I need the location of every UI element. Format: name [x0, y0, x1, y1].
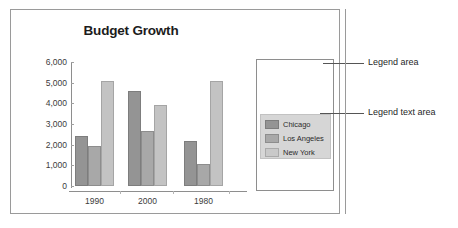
legend-item-label: Los Angeles	[283, 134, 324, 143]
y-axis-tick-labels: 6,0005,0004,0003,0002,0001,0000	[21, 62, 67, 188]
y-axis-tick-label: 2,000	[23, 140, 67, 150]
y-axis-tick-label: 1,000	[23, 160, 67, 170]
legend-swatch-icon	[265, 148, 279, 157]
chart-title: Budget Growth	[11, 23, 251, 38]
x-axis-line	[69, 191, 247, 192]
legend-item-label: New York	[283, 148, 315, 157]
chart-frame: Budget Growth 6,0005,0004,0003,0002,0001…	[10, 9, 340, 214]
callout-label: Legend text area	[368, 107, 436, 117]
callout-leader-line	[320, 113, 364, 114]
x-axis-tick-label: 1980	[181, 196, 227, 206]
y-axis-tick-label: 6,000	[23, 57, 67, 67]
bar-new-york-1990	[101, 81, 114, 186]
bar-los-angeles-2000	[141, 131, 154, 186]
legend-swatch-icon	[265, 120, 279, 129]
bar-new-york-2000	[154, 105, 167, 186]
callout-leader-line	[323, 63, 364, 64]
x-axis-tick-label: 1990	[72, 196, 118, 206]
callout-guide-line	[345, 9, 346, 214]
x-axis-tick-mark	[229, 191, 230, 194]
x-axis-tick-label: 2000	[125, 196, 171, 206]
bar-new-york-1980	[210, 81, 223, 186]
y-axis-tick-label: 4,000	[23, 98, 67, 108]
x-axis-tick-mark	[173, 191, 174, 194]
callout-label: Legend area	[368, 57, 419, 67]
bar-los-angeles-1990	[88, 146, 101, 186]
bar-chicago-2000	[128, 91, 141, 186]
legend-swatch-icon	[265, 134, 279, 143]
x-axis-tick-mark	[120, 191, 121, 194]
y-axis-tick-label: 3,000	[23, 119, 67, 129]
legend-item[interactable]: New York	[265, 146, 327, 159]
y-axis-tick-label: 0	[23, 181, 67, 191]
plot-area	[72, 62, 242, 186]
legend-item-label: Chicago	[283, 120, 311, 129]
bar-chicago-1980	[184, 141, 197, 186]
legend-text-area: ChicagoLos AngelesNew York	[260, 114, 331, 159]
legend-item[interactable]: Los Angeles	[265, 132, 327, 145]
y-axis-tick-label: 5,000	[23, 78, 67, 88]
y-axis-tick-mark	[71, 186, 74, 187]
bar-los-angeles-1980	[197, 164, 210, 186]
bar-chicago-1990	[75, 136, 88, 186]
legend-item[interactable]: Chicago	[265, 118, 327, 131]
